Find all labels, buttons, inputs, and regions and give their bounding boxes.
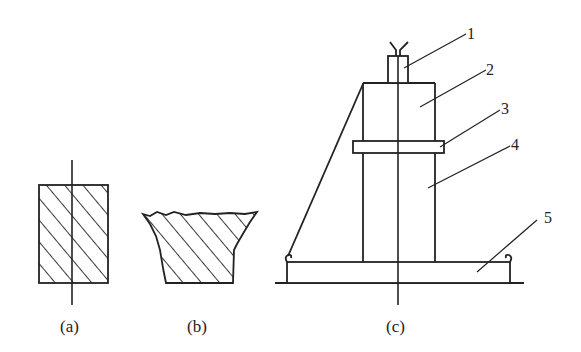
specimen-b (143, 212, 257, 283)
diagram-drawing (0, 0, 581, 352)
wire-right (400, 42, 408, 56)
caption-c: (c) (386, 318, 405, 335)
callout-1: 1 (467, 26, 475, 42)
caption-a: (a) (60, 318, 79, 335)
callout-4: 4 (511, 137, 519, 153)
leader-1 (404, 34, 466, 68)
hook-right (506, 255, 511, 262)
callout-5: 5 (544, 210, 552, 226)
diagram-canvas: (a) (b) (c) 1 2 3 4 5 (0, 0, 581, 352)
callout-3: 3 (501, 101, 509, 117)
specimen-a (39, 160, 108, 305)
callout-2: 2 (486, 62, 494, 78)
wire-left (390, 42, 396, 56)
leader-3 (440, 110, 500, 147)
apparatus-c (275, 34, 537, 305)
leader-2 (420, 70, 486, 107)
caption-b: (b) (187, 318, 207, 335)
diagonal-tie (288, 84, 363, 256)
